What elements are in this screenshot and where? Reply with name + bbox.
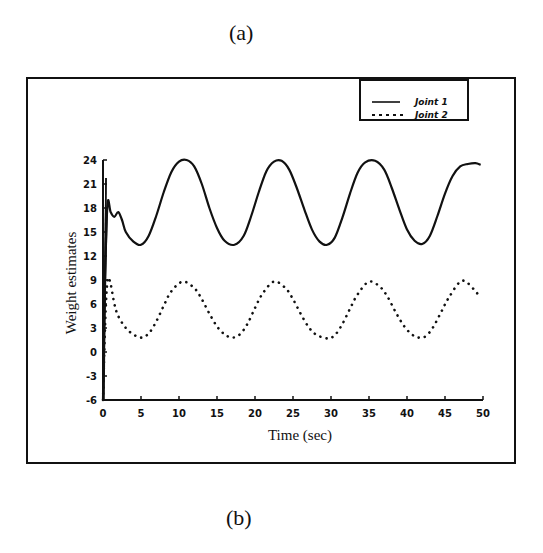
y-tick-label: 15 bbox=[83, 227, 97, 238]
weight-estimates-chart: Joint 1 Joint 2 24211815129630-3-6051015… bbox=[0, 0, 543, 553]
x-tick-label: 50 bbox=[476, 408, 490, 419]
plot-area bbox=[103, 160, 481, 400]
y-tick-label: 0 bbox=[90, 347, 97, 358]
x-tick-label: 40 bbox=[400, 408, 414, 419]
x-tick-label: 45 bbox=[438, 408, 452, 419]
x-tick-label: 30 bbox=[324, 408, 338, 419]
x-tick-label: 15 bbox=[210, 408, 224, 419]
x-tick-label: 20 bbox=[248, 408, 262, 419]
y-tick-label: 24 bbox=[83, 155, 97, 166]
legend-label-joint2: Joint 2 bbox=[413, 110, 448, 120]
outer-frame bbox=[27, 78, 515, 463]
y-tick-label: 6 bbox=[90, 299, 97, 310]
y-tick-label: 12 bbox=[83, 251, 97, 262]
y-axis-label: Weight estimates bbox=[63, 232, 79, 335]
x-tick-label: 35 bbox=[362, 408, 376, 419]
x-tick-label: 5 bbox=[138, 408, 145, 419]
legend-label-joint1: Joint 1 bbox=[413, 97, 448, 107]
series-joint-1 bbox=[103, 160, 481, 400]
series-joint-2 bbox=[103, 277, 481, 400]
y-tick-label: 9 bbox=[90, 275, 97, 286]
x-tick-label: 10 bbox=[172, 408, 186, 419]
figure-caption-b: (b) bbox=[226, 505, 252, 531]
axes: 24211815129630-3-605101520253035404550 bbox=[83, 155, 490, 419]
y-tick-label: -6 bbox=[86, 395, 97, 406]
y-tick-label: 18 bbox=[83, 203, 97, 214]
legend: Joint 1 Joint 2 bbox=[360, 80, 468, 120]
y-tick-label: -3 bbox=[86, 371, 97, 382]
y-tick-label: 3 bbox=[90, 323, 97, 334]
x-tick-label: 25 bbox=[286, 408, 300, 419]
y-tick-label: 21 bbox=[83, 179, 97, 190]
x-axis-label: Time (sec) bbox=[268, 427, 332, 444]
x-tick-label: 0 bbox=[100, 408, 107, 419]
